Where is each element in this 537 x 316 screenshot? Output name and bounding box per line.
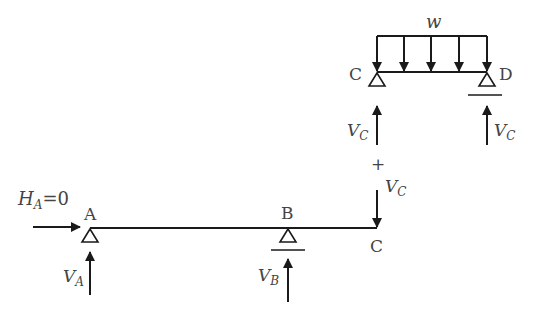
roller-support-b <box>280 229 296 242</box>
reaction-label-va: VA <box>63 266 84 289</box>
pin-support-c-top <box>369 73 385 86</box>
reaction-label-vb: VB <box>258 265 279 288</box>
load-label: w <box>426 11 442 32</box>
distributed-load <box>377 36 487 71</box>
node-label-a: A <box>83 204 97 224</box>
plus-sign: + <box>371 154 385 174</box>
node-label-d: D <box>499 64 513 84</box>
transfer-force-label-vc: VC <box>385 176 406 199</box>
beam-free-body-diagram: w C D VC VC + VC A HA=0 VA B VB C <box>0 0 537 316</box>
reaction-label-vc-top-left: VC <box>347 120 368 143</box>
node-label-c-bottom: C <box>370 236 383 256</box>
reaction-label-vc-top-right: VC <box>494 120 515 143</box>
node-label-b: B <box>281 203 294 223</box>
horizontal-reaction-label: HA=0 <box>17 188 69 212</box>
pin-support-a <box>82 229 98 242</box>
node-label-c-top: C <box>349 64 362 84</box>
roller-support-d <box>479 73 495 86</box>
